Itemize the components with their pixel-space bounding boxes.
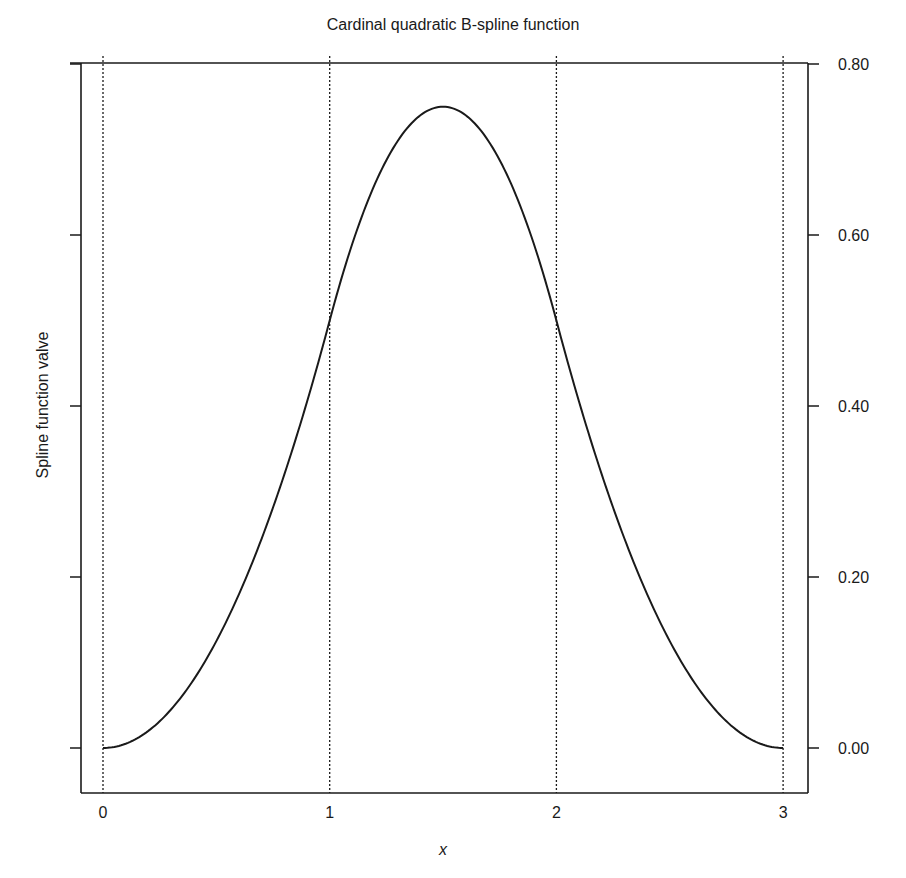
y-tick-label: 0.40 <box>838 398 869 415</box>
bspline-chart: Cardinal quadratic B-spline function 0.0… <box>0 0 906 878</box>
x-tick-label: 0 <box>99 804 108 821</box>
knot-lines <box>103 56 783 793</box>
x-axis-ticks: 0123 <box>99 804 788 821</box>
spline-curve <box>103 107 783 748</box>
y-tick-label: 0.80 <box>838 56 869 73</box>
y-axis-label: Spline function valve <box>34 332 51 479</box>
y-tick-label: 0.00 <box>838 740 869 757</box>
y-tick-label: 0.60 <box>838 227 869 244</box>
x-tick-label: 2 <box>552 804 561 821</box>
x-axis-label: x <box>438 841 448 858</box>
x-tick-label: 3 <box>779 804 788 821</box>
x-tick-label: 1 <box>325 804 334 821</box>
y-tick-label: 0.20 <box>838 569 869 586</box>
chart-title: Cardinal quadratic B-spline function <box>327 16 580 33</box>
y-axis-ticks: 0.000.200.400.600.80 <box>70 56 869 757</box>
plot-frame <box>70 63 808 793</box>
